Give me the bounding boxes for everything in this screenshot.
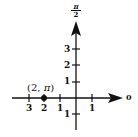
v-tick-label-neg1: 1 xyxy=(64,110,70,119)
point-label-close: ) xyxy=(50,82,54,93)
h-tick-label-neg1: 1 xyxy=(57,104,63,113)
h-tick-label-neg3: 3 xyxy=(26,104,32,113)
vertical-axis-label: π 2 xyxy=(71,3,81,18)
plotted-point-marker xyxy=(41,95,47,101)
vertical-axis-label-denominator: 2 xyxy=(71,11,81,18)
v-tick-label-2: 2 xyxy=(64,61,70,70)
h-tick-label-pos1: 1 xyxy=(89,104,95,113)
point-label-open: (2, xyxy=(27,82,40,93)
polar-axis-label: 0 xyxy=(126,93,132,101)
polar-diagram: π 2 0 3 2 1 1 3 2 1 1 (2, π) xyxy=(0,0,138,137)
h-tick-label-neg2: 2 xyxy=(41,104,47,113)
v-tick-label-1: 1 xyxy=(64,77,70,86)
v-tick-label-3: 3 xyxy=(64,45,70,54)
point-label: (2, π) xyxy=(27,83,54,93)
